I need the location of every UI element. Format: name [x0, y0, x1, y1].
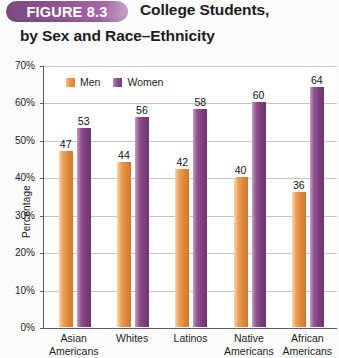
y-tick-label-50: 50%	[0, 135, 35, 146]
bar-groups: 47534456425840603664	[46, 66, 338, 327]
x-axis-label: AsianAmericans	[45, 332, 103, 358]
y-tick-mark-60	[40, 103, 44, 104]
figure-title-line-1: College Students,	[140, 1, 269, 19]
legend: Men Women	[66, 76, 163, 88]
y-tick-mark-40	[40, 178, 44, 179]
bar-rect	[310, 87, 324, 327]
bar-women: 58	[193, 66, 207, 327]
legend-label-men: Men	[80, 76, 100, 88]
x-axis-label: Latinos	[161, 332, 219, 358]
bar-rect	[292, 192, 306, 327]
y-tick-label-10: 10%	[0, 285, 35, 296]
y-tick-label-40: 40%	[0, 172, 35, 183]
x-axis-labels: AsianAmericansWhitesLatinosNativeAmerica…	[45, 332, 337, 358]
bar-rect	[59, 151, 73, 327]
bar-value-label: 53	[68, 115, 100, 127]
figure-page: FIGURE 8.3 College Students, by Sex and …	[0, 0, 339, 358]
y-tick-label-20: 20%	[0, 247, 35, 258]
legend-entry-women: Women	[113, 76, 163, 88]
bar-value-label: 58	[184, 96, 216, 108]
bar-rect	[252, 102, 266, 327]
bar-group: 3664	[279, 66, 337, 327]
y-tick-mark-50	[40, 141, 44, 142]
x-axis-label: NativeAmericans	[220, 332, 278, 358]
y-tick-label-60: 60%	[0, 97, 35, 108]
x-axis-label: AfricanAmericans	[278, 332, 336, 358]
bar-men: 36	[292, 66, 306, 327]
legend-label-women: Women	[127, 76, 163, 88]
y-tick-mark-20	[40, 253, 44, 254]
bar-group: 4753	[46, 66, 104, 327]
figure-header: FIGURE 8.3 College Students, by Sex and …	[0, 0, 339, 56]
bar-men: 47	[59, 66, 73, 327]
y-tick-mark-0	[40, 328, 44, 329]
bar-men: 40	[234, 66, 248, 327]
y-tick-label-30: 30%	[0, 210, 35, 221]
figure-number-badge: FIGURE 8.3	[6, 1, 128, 22]
bar-rect	[193, 109, 207, 326]
legend-entry-men: Men	[66, 76, 100, 88]
y-tick-mark-30	[40, 216, 44, 217]
bar-rect	[234, 177, 248, 327]
bar-women: 53	[77, 66, 91, 327]
bar-rect	[175, 169, 189, 326]
bar-rect	[135, 117, 149, 327]
bar-value-label: 56	[126, 104, 158, 116]
chart: Percentage 70% 60% 50% 40% 30% 20% 10	[0, 56, 339, 358]
y-tick-mark-10	[40, 291, 44, 292]
bar-group: 4456	[104, 66, 162, 327]
legend-swatch-men-icon	[66, 78, 75, 87]
x-axis-label: Whites	[103, 332, 161, 358]
y-tick-label-0: 0%	[0, 322, 35, 333]
bar-value-label: 64	[301, 74, 333, 86]
bar-women: 64	[310, 66, 324, 327]
bar-group: 4060	[220, 66, 278, 327]
bar-group: 4258	[162, 66, 220, 327]
bar-women: 60	[252, 66, 266, 327]
legend-swatch-women-icon	[113, 78, 122, 87]
bar-women: 56	[135, 66, 149, 327]
y-tick-label-70: 70%	[0, 60, 35, 71]
plot-area: 70% 60% 50% 40% 30% 20% 10% 0% Men Women…	[43, 66, 337, 329]
bar-value-label: 60	[243, 89, 275, 101]
figure-title-line-2: by Sex and Race–Ethnicity	[20, 27, 215, 45]
bar-rect	[77, 128, 91, 326]
y-tick-mark-70	[40, 66, 44, 67]
bar-rect	[117, 162, 131, 327]
